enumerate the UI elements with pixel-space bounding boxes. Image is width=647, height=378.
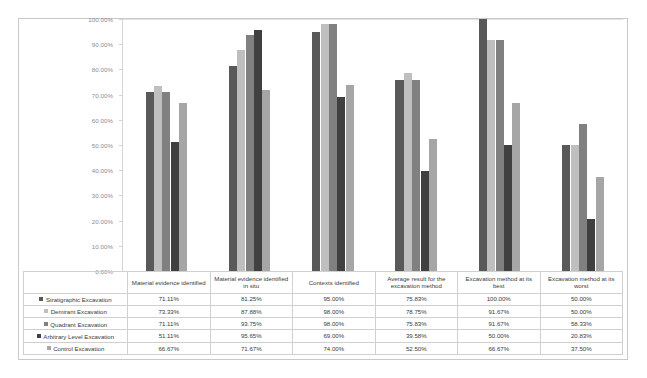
legend-label: Quadrant Excavation (50, 320, 107, 327)
legend-swatch-icon (44, 309, 48, 313)
table-cell-value: 66.67% (128, 342, 211, 354)
table-header-row: Material evidence identifiedMaterial evi… (24, 272, 623, 294)
table-cell-value: 66.67% (458, 342, 541, 354)
bar (404, 73, 412, 271)
legend-label: Arbitrary Level Excavation (43, 333, 114, 340)
data-table: Material evidence identifiedMaterial evi… (23, 271, 623, 355)
y-axis-tick-label: 20.00% (92, 217, 113, 224)
bar (421, 171, 429, 271)
table-cell-value: 58.33% (540, 318, 623, 330)
table-row: Stratigraphic Excavation71.11%81.25%95.0… (24, 293, 623, 305)
bar (337, 97, 345, 271)
bar-group (456, 19, 539, 271)
table-column-header: Material evidence identified in situ (210, 272, 293, 294)
y-axis-tick-label: 70.00% (92, 91, 113, 98)
bar-group (540, 19, 623, 271)
y-axis-tick-label: 60.00% (92, 116, 113, 123)
table-cell-value: 75.83% (375, 293, 458, 305)
table-column-header: Excavation method at its worst (540, 272, 623, 294)
table-row: Control Excavation66.67%71.67%74.00%52.5… (24, 342, 623, 354)
legend-item: Demirant Excavation (24, 305, 128, 317)
bar (329, 24, 337, 271)
plot-canvas (122, 19, 623, 271)
bar (162, 92, 170, 271)
bar-group (123, 19, 206, 271)
y-axis-tick-label: 50.00% (92, 142, 113, 149)
bar (179, 103, 187, 271)
legend-swatch-icon (39, 297, 43, 301)
bar (429, 139, 437, 271)
table-column-header: Average result for the excavation method (375, 272, 458, 294)
bar (579, 124, 587, 271)
table-cell-value: 51.11% (128, 330, 211, 342)
legend-swatch-icon (47, 346, 51, 350)
bar (146, 92, 154, 271)
y-axis-tick-label: 10.00% (92, 242, 113, 249)
table-cell-value: 50.00% (540, 293, 623, 305)
table-cell-value: 98.00% (293, 318, 376, 330)
table-row: Quadrant Excavation71.11%93.75%98.00%75.… (24, 318, 623, 330)
bar (571, 145, 579, 271)
table-cell-value: 69.00% (293, 330, 376, 342)
legend-swatch-icon (37, 334, 41, 338)
y-axis-tick-label: 90.00% (92, 41, 113, 48)
y-axis: 0.00%10.00%20.00%30.00%40.00%50.00%60.00… (19, 19, 119, 271)
table-column-header: Contexts identified (293, 272, 376, 294)
legend-label: Demirant Excavation (51, 308, 107, 315)
bar (229, 66, 237, 271)
table-cell-value: 75.83% (375, 318, 458, 330)
table-cell-value: 50.00% (540, 305, 623, 317)
table-cell-value: 37.50% (540, 342, 623, 354)
bars-layer (123, 19, 623, 271)
data-table-container: Material evidence identifiedMaterial evi… (23, 271, 623, 355)
bar (171, 142, 179, 271)
table-cell-value: 71.11% (128, 318, 211, 330)
table-cell-value: 98.00% (293, 305, 376, 317)
bar-group (373, 19, 456, 271)
table-cell-value: 95.00% (293, 293, 376, 305)
plot-area: 0.00%10.00%20.00%30.00%40.00%50.00%60.00… (19, 19, 627, 271)
bar (346, 85, 354, 271)
bar-group (206, 19, 289, 271)
table-cell-value: 50.00% (458, 330, 541, 342)
bar (562, 145, 570, 271)
bar (262, 90, 270, 271)
legend-label: Control Excavation (53, 345, 104, 352)
table-cell-value: 93.75% (210, 318, 293, 330)
bar (512, 103, 520, 271)
bar (154, 86, 162, 271)
table-cell-value: 71.11% (128, 293, 211, 305)
table-cell-value: 87.88% (210, 305, 293, 317)
bar (487, 40, 495, 271)
bar (237, 50, 245, 271)
bar (479, 19, 487, 271)
table-row: Arbitrary Level Excavation51.11%95.65%69… (24, 330, 623, 342)
bar (596, 177, 604, 272)
table-corner-cell (24, 272, 128, 294)
table-column-header: Excavation method at its best (458, 272, 541, 294)
bar (395, 80, 403, 271)
y-axis-tick-label: 80.00% (92, 66, 113, 73)
bar (312, 32, 320, 271)
table-cell-value: 71.67% (210, 342, 293, 354)
legend-label: Stratigraphic Excavation (46, 296, 112, 303)
bar (246, 35, 254, 271)
chart-frame: 0.00%10.00%20.00%30.00%40.00%50.00%60.00… (18, 18, 628, 360)
bar (504, 145, 512, 271)
legend-item: Arbitrary Level Excavation (24, 330, 128, 342)
table-cell-value: 100.00% (458, 293, 541, 305)
table-cell-value: 91.67% (458, 318, 541, 330)
table-cell-value: 52.50% (375, 342, 458, 354)
bar (587, 219, 595, 271)
table-cell-value: 81.25% (210, 293, 293, 305)
table-cell-value: 78.75% (375, 305, 458, 317)
legend-item: Control Excavation (24, 342, 128, 354)
table-row: Demirant Excavation73.33%87.88%98.00%78.… (24, 305, 623, 317)
legend-item: Stratigraphic Excavation (24, 293, 128, 305)
table-cell-value: 73.33% (128, 305, 211, 317)
bar (496, 40, 504, 271)
table-cell-value: 95.65% (210, 330, 293, 342)
table-cell-value: 91.67% (458, 305, 541, 317)
y-axis-tick-label: 100.00% (88, 16, 113, 23)
bar (321, 24, 329, 271)
